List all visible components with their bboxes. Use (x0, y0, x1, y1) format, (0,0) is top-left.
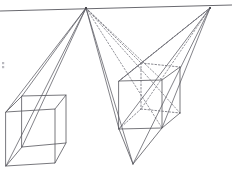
right-cube-hidden-edge-bottom-left (119, 109, 141, 129)
left-vanishing-point (85, 7, 87, 9)
left-vp-ray-solid-1 (6, 8, 86, 112)
left-vp-ray-solid-4 (22, 8, 86, 147)
horizon-line (0, 5, 232, 11)
perspective-figure (0, 0, 232, 170)
right-vp-ray-group (119, 8, 210, 164)
right-vp-ray-solid-2 (119, 8, 210, 129)
right-cube-apex-edge-left (119, 129, 133, 164)
perspective-drawing-canvas (0, 0, 232, 170)
left-cube-edge-top-right (55, 95, 66, 109)
left-vp-ray-solid-3 (22, 8, 86, 96)
left-vp-ray-dotted-4 (86, 8, 162, 128)
right-cube-apex-edge-right (133, 128, 162, 164)
right-vanishing-point (209, 7, 211, 9)
left-vp-ray-solid-2 (6, 8, 86, 166)
right-cube-hidden-edge-top-back (141, 63, 180, 67)
left-vp-ray-solid-6 (86, 8, 133, 164)
left-cube-edge-top-left (6, 96, 22, 112)
right-cube-hidden-edge-bottom-back (141, 109, 180, 113)
right-vp-ray-solid-3 (133, 8, 210, 164)
stray-mark-lower (2, 66, 4, 68)
left-vp-ray-dotted-2 (86, 8, 162, 80)
left-cube-edge-bottom-right (55, 143, 66, 163)
left-vp-ray-group (6, 8, 180, 166)
stray-mark-upper (2, 62, 4, 64)
left-cube (6, 95, 66, 166)
